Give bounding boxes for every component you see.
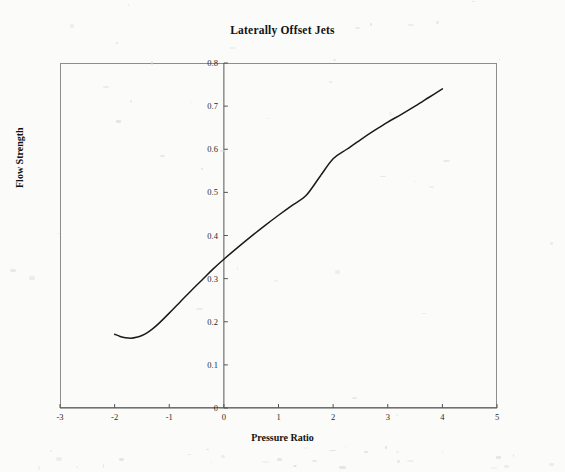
scan-speckle [38, 466, 40, 470]
x-tick-label: 3 [386, 412, 390, 422]
scan-speckle [116, 42, 119, 43]
scan-speckle [550, 242, 553, 246]
scan-speckle [206, 449, 209, 451]
y-axis-title: Flow Strength [14, 127, 25, 188]
figure-canvas: Laterally Offset Jets -3-2-1012345 00.10… [0, 0, 565, 472]
scan-speckle [549, 463, 554, 466]
y-tick-label: 0.8 [192, 58, 218, 68]
scan-speckle [396, 451, 399, 454]
scan-speckle [385, 446, 386, 449]
data-series-line [115, 89, 443, 338]
scan-speckle [333, 59, 336, 62]
scan-speckle [513, 454, 514, 457]
scan-speckle [128, 4, 129, 7]
scan-speckle [10, 269, 16, 272]
scan-speckle [504, 465, 509, 468]
scan-speckle [221, 455, 226, 458]
scan-speckle [407, 460, 413, 462]
scan-speckle [119, 458, 124, 461]
x-tick-label: -1 [166, 412, 173, 422]
scan-speckle [499, 58, 500, 60]
scan-speckle [50, 450, 52, 452]
plot-area [60, 63, 497, 408]
x-tick-label: 1 [276, 412, 280, 422]
y-tick-label: 0.7 [192, 101, 218, 111]
scan-speckle [262, 461, 269, 463]
scan-speckle [277, 458, 282, 461]
scan-speckle [397, 460, 400, 463]
scan-speckle [498, 446, 499, 447]
scan-speckle [442, 450, 443, 454]
scan-speckle [187, 454, 192, 455]
x-tick-label: 2 [331, 412, 335, 422]
x-axis-title: Pressure Ratio [0, 432, 565, 443]
x-tick-label: 5 [495, 412, 499, 422]
scan-speckle [491, 467, 497, 469]
scan-speckle [396, 414, 398, 417]
x-tick-label: 4 [440, 412, 444, 422]
y-tick-label: 0.6 [192, 144, 218, 154]
y-tick-label: 0 [192, 403, 218, 413]
scan-speckle [56, 457, 62, 461]
x-tick-label: -3 [56, 412, 63, 422]
axis-lines [60, 63, 497, 408]
scan-speckle [229, 47, 236, 50]
scan-speckle [496, 456, 501, 459]
y-tick-marks [224, 63, 228, 408]
scan-speckle [303, 447, 309, 450]
scan-speckle [345, 446, 346, 448]
y-tick-label: 0.1 [192, 360, 218, 370]
y-tick-label: 0.3 [192, 274, 218, 284]
scan-speckle [364, 451, 368, 452]
chart-title: Laterally Offset Jets [0, 24, 565, 36]
scan-speckle [76, 466, 78, 469]
scan-speckle [103, 464, 104, 468]
y-tick-label: 0.4 [192, 231, 218, 241]
scan-speckle [294, 465, 296, 467]
y-tick-label: 0.2 [192, 317, 218, 327]
scan-speckle [29, 276, 35, 280]
scan-speckle [329, 450, 336, 452]
scan-speckle [339, 466, 346, 469]
y-tick-label: 0.5 [192, 187, 218, 197]
x-tick-label: 0 [222, 412, 226, 422]
plot-svg [60, 63, 497, 408]
scan-speckle [312, 460, 317, 462]
x-tick-marks [60, 404, 497, 408]
scan-speckle [293, 465, 297, 467]
x-tick-label: -2 [111, 412, 118, 422]
scan-speckle [472, 1, 476, 3]
scan-speckle [211, 461, 212, 465]
